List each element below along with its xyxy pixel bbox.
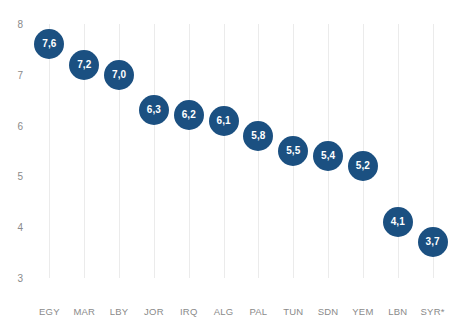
y-axis-tick-label: 6 bbox=[17, 120, 23, 131]
y-axis-tick-label: 7 bbox=[17, 69, 23, 80]
plot-area: EGY7,6MAR7,2LBY7,0JOR6,3IRQ6,2ALG6,1PAL5… bbox=[32, 18, 450, 278]
x-axis-tick-label: TUN bbox=[283, 306, 303, 317]
data-point-bubble[interactable]: 3,7 bbox=[418, 227, 448, 257]
x-axis-tick-label: LBY bbox=[110, 306, 129, 317]
data-point-value-label: 7,6 bbox=[42, 39, 56, 49]
data-point-bubble[interactable]: 6,2 bbox=[174, 100, 204, 130]
x-axis-tick-label: JOR bbox=[144, 306, 164, 317]
data-point-value-label: 3,7 bbox=[425, 237, 439, 247]
data-point-bubble[interactable]: 6,3 bbox=[139, 95, 169, 125]
x-axis-tick-label: ALG bbox=[214, 306, 234, 317]
x-axis-tick-label: SDN bbox=[318, 306, 339, 317]
x-axis-tick-label: LBN bbox=[388, 306, 407, 317]
bubble-chart: EGY7,6MAR7,2LBY7,0JOR6,3IRQ6,2ALG6,1PAL5… bbox=[0, 0, 456, 317]
data-point-value-label: 5,2 bbox=[356, 161, 370, 171]
data-point-value-label: 7,0 bbox=[112, 70, 126, 80]
y-axis-tick-label: 4 bbox=[17, 222, 23, 233]
gridline bbox=[224, 24, 225, 278]
data-point-bubble[interactable]: 7,2 bbox=[69, 50, 99, 80]
data-point-bubble[interactable]: 7,0 bbox=[104, 60, 134, 90]
y-axis-tick-label: 3 bbox=[17, 273, 23, 284]
x-axis-tick-label: MAR bbox=[73, 306, 95, 317]
data-point-bubble[interactable]: 5,5 bbox=[278, 136, 308, 166]
data-point-value-label: 6,2 bbox=[182, 110, 196, 120]
gridline bbox=[154, 24, 155, 278]
x-axis-tick-label: PAL bbox=[249, 306, 267, 317]
data-point-bubble[interactable]: 7,6 bbox=[34, 29, 64, 59]
gridline bbox=[189, 24, 190, 278]
data-point-bubble[interactable]: 5,2 bbox=[348, 151, 378, 181]
y-axis-tick-label: 8 bbox=[17, 19, 23, 30]
y-axis-tick-label: 5 bbox=[17, 171, 23, 182]
gridline bbox=[49, 24, 50, 278]
data-point-bubble[interactable]: 5,8 bbox=[243, 121, 273, 151]
x-axis-tick-label: YEM bbox=[352, 306, 373, 317]
data-point-bubble[interactable]: 4,1 bbox=[383, 207, 413, 237]
x-axis-tick-label: SYR* bbox=[421, 306, 445, 317]
data-point-bubble[interactable]: 6,1 bbox=[209, 106, 239, 136]
data-point-value-label: 4,1 bbox=[391, 217, 405, 227]
x-axis-tick-label: IRQ bbox=[180, 306, 198, 317]
data-point-value-label: 5,8 bbox=[251, 131, 265, 141]
data-point-value-label: 5,5 bbox=[286, 146, 300, 156]
data-point-value-label: 5,4 bbox=[321, 151, 335, 161]
data-point-value-label: 6,1 bbox=[216, 116, 230, 126]
data-point-value-label: 6,3 bbox=[147, 105, 161, 115]
gridline bbox=[258, 24, 259, 278]
data-point-value-label: 7,2 bbox=[77, 60, 91, 70]
gridline bbox=[398, 24, 399, 278]
x-axis-tick-label: EGY bbox=[39, 306, 60, 317]
data-point-bubble[interactable]: 5,4 bbox=[313, 141, 343, 171]
